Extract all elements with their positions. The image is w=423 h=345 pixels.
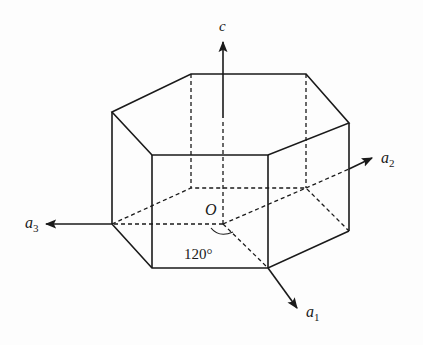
axis-label-a1: a1 [306,303,320,323]
origin-label: O [205,201,217,218]
diagram-canvas: c a2 a3 a1 O 120° [0,0,423,345]
hexagonal-axes-diagram: c a2 a3 a1 O 120° [0,0,423,345]
axis-label-a3: a3 [25,214,39,234]
visible-vertical-edges [112,112,349,268]
top-hexagon-face [112,74,349,155]
angle-label: 120° [184,246,213,262]
axis-label-a2: a2 [381,149,395,169]
axis-label-c: c [219,18,226,34]
axis-a1 [223,224,297,308]
hidden-vertical-edges [191,74,306,188]
hidden-bottom-edges [112,188,349,231]
